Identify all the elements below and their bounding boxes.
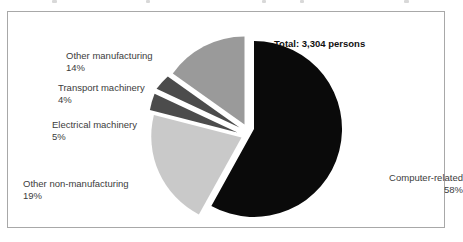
pie-label-other-non-manufacturing-value: 19% — [23, 190, 201, 202]
pie-label-electrical-machinery-value: 5% — [52, 131, 201, 143]
pie-label-electrical-machinery: Electrical machinery 5% — [52, 119, 201, 142]
pie-label-computer-related: Computer-related 58% — [348, 172, 463, 195]
pie-label-other-non-manufacturing: Other non-manufacturing 19% — [23, 178, 201, 201]
pie-label-other-manufacturing-name: Other manufacturing — [66, 50, 201, 62]
pie-label-transport-machinery: Transport machinery 4% — [58, 82, 201, 105]
pie-label-computer-related-value: 58% — [348, 184, 463, 196]
pie-label-other-manufacturing: Other manufacturing 14% — [66, 50, 201, 73]
pie-label-electrical-machinery-name: Electrical machinery — [52, 119, 201, 131]
pie-chart: Other manufacturing 14% Transport machin… — [8, 12, 444, 227]
pie-label-computer-related-name: Computer-related — [348, 172, 463, 184]
cut-off-caption-artifacts — [0, 0, 457, 8]
pie-label-transport-machinery-value: 4% — [58, 94, 201, 106]
pie-label-other-non-manufacturing-name: Other non-manufacturing — [23, 178, 201, 190]
pie-label-transport-machinery-name: Transport machinery — [58, 82, 201, 94]
figure-frame: Other manufacturing 14% Transport machin… — [7, 11, 445, 228]
total-annotation: Total: 3,304 persons — [274, 38, 365, 49]
pie-label-other-manufacturing-value: 14% — [66, 62, 201, 74]
